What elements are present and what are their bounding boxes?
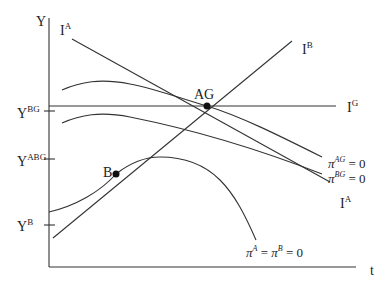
point-ag (204, 103, 211, 110)
pi-ag-curve (62, 81, 322, 157)
ia-label-bottom: IA (340, 194, 352, 211)
tick-label-yb: YB (17, 217, 33, 234)
point-ag-label: AG (194, 87, 214, 102)
ib-label: IB (302, 40, 313, 57)
pi-a-pi-b-curve (49, 157, 256, 240)
ib-line (53, 41, 292, 238)
tick-label-ybg: YBG (17, 104, 40, 121)
pi-a-pi-b-label: πA = πB = 0 (246, 244, 303, 260)
ia-label-top: IA (60, 21, 72, 38)
economics-diagram: Y t YBG YABG YB IG IA IA IB πAG = 0 πBG … (0, 0, 386, 286)
y-axis-label: Y (36, 14, 46, 29)
point-b (113, 171, 120, 178)
pi-ag-label: πAG = 0 (328, 155, 366, 171)
ia-line (72, 39, 330, 182)
point-b-label: B (103, 165, 112, 180)
tick-label-yabg: YABG (17, 152, 47, 169)
pi-bg-label: πBG = 0 (328, 170, 366, 186)
x-axis-label: t (370, 263, 374, 278)
ig-label: IG (347, 98, 359, 115)
